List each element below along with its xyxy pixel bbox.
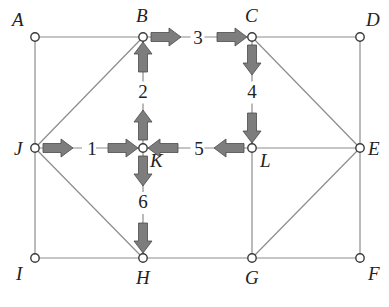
node-label-l: L <box>259 150 271 171</box>
node-label-a: A <box>10 9 24 30</box>
node-k <box>139 144 147 152</box>
arrow-step-5-start-icon <box>214 139 244 157</box>
node-j <box>31 144 39 152</box>
node-label-b: B <box>136 5 148 26</box>
arrow-step-6-end-icon <box>134 223 152 253</box>
step-label-2: 2 <box>138 81 148 102</box>
node-a <box>31 33 39 41</box>
node-f <box>356 254 364 262</box>
step-label-4: 4 <box>247 81 257 102</box>
edge-j-h <box>35 148 143 258</box>
arrow-step-1-end-icon <box>108 139 138 157</box>
graph-diagram: 123456 ABCDJKLEIHGF <box>0 0 389 307</box>
node-label-e: E <box>367 138 380 159</box>
node-label-j: J <box>14 138 24 159</box>
arrow-step-1-start-icon <box>43 139 73 157</box>
arrow-step-4-end-icon <box>243 113 261 143</box>
arrows-layer <box>43 28 261 253</box>
node-c <box>248 33 256 41</box>
node-i <box>31 254 39 262</box>
step-labels-layer: 123456 <box>82 26 259 214</box>
step-label-6: 6 <box>138 191 148 212</box>
arrow-step-4-start-icon <box>243 45 261 75</box>
node-l <box>248 144 256 152</box>
node-d <box>356 33 364 41</box>
node-h <box>139 254 147 262</box>
arrow-step-2-start-icon <box>134 110 152 140</box>
step-label-3: 3 <box>193 27 203 48</box>
node-label-g: G <box>245 267 259 288</box>
node-label-i: I <box>15 263 24 284</box>
node-label-h: H <box>135 267 151 288</box>
node-label-k: K <box>149 150 164 171</box>
step-label-5: 5 <box>194 138 204 159</box>
step-label-1: 1 <box>87 138 97 159</box>
node-b <box>139 33 147 41</box>
node-e <box>356 144 364 152</box>
node-g <box>248 254 256 262</box>
arrow-step-2-end-icon <box>134 42 152 72</box>
arrow-step-3-start-icon <box>151 28 181 46</box>
node-label-f: F <box>367 263 380 284</box>
edge-j-b <box>35 37 143 148</box>
node-label-d: D <box>365 9 380 30</box>
edge-c-e <box>252 37 360 148</box>
node-label-c: C <box>245 5 258 26</box>
arrow-step-3-end-icon <box>217 28 247 46</box>
